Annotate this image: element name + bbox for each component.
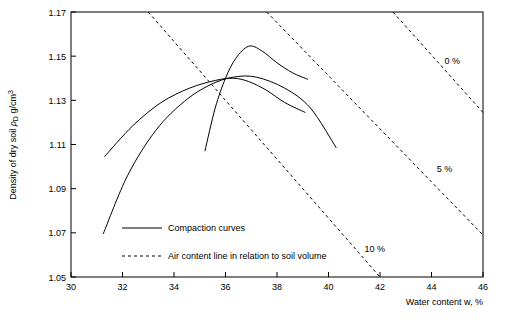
x-tick-label: 32 <box>117 282 127 292</box>
x-tick-label: 34 <box>169 282 179 292</box>
x-tick-label: 38 <box>272 282 282 292</box>
annotation-0-percent: 0 % <box>444 56 460 66</box>
x-tick-label: 36 <box>220 282 230 292</box>
y-tick-label: 1.15 <box>48 52 66 62</box>
chart-container: 303234363840424446 1.051.071.091.111.131… <box>0 0 521 336</box>
y-tick-label: 1.13 <box>48 96 66 106</box>
y-tick-label: 1.05 <box>48 273 66 283</box>
y-axis-title-superscript: 3 <box>7 90 14 94</box>
annotations-group: 0 %5 %10 % <box>365 56 460 254</box>
y-axis-title: Density of dry soil ρD g/cm3 <box>7 90 19 200</box>
y-tick-label: 1.17 <box>48 8 66 18</box>
x-tick-label: 30 <box>66 282 76 292</box>
y-axis-ticks: 1.051.071.091.111.131.151.17 <box>48 8 76 283</box>
y-tick-label: 1.11 <box>49 140 66 150</box>
x-tick-label: 42 <box>375 282 385 292</box>
y-axis-title-main: Density of dry soil <box>8 126 18 200</box>
y-tick-label: 1.09 <box>48 184 66 194</box>
legend-label-air-content-line: Air content line in relation to soil vol… <box>168 251 327 261</box>
x-axis-ticks: 303234363840424446 <box>66 272 488 292</box>
x-tick-label: 44 <box>426 282 436 292</box>
compaction-curve-3 <box>104 78 305 156</box>
air-content-line-5-percent <box>267 12 483 235</box>
air-content-line-0-percent <box>148 12 380 277</box>
plot-frame <box>71 12 483 277</box>
chart-legend: Compaction curves Air content line in re… <box>122 223 327 261</box>
density-vs-water-content-chart: 303234363840424446 1.051.071.091.111.131… <box>0 0 521 336</box>
air-content-line-10-percent <box>393 12 483 112</box>
x-axis-title: Water content w, % <box>406 297 483 307</box>
y-tick-label: 1.07 <box>48 228 66 238</box>
annotation-5-percent: 5 % <box>437 164 453 174</box>
svg-text:Density of dry soil ρD g/cm3: Density of dry soil ρD g/cm3 <box>7 90 19 200</box>
compaction-curve-1 <box>103 76 336 234</box>
data-series-group <box>103 12 483 277</box>
y-axis-title-units: g/cm <box>8 94 18 116</box>
x-tick-label: 40 <box>323 282 333 292</box>
annotation-10-percent: 10 % <box>365 244 386 254</box>
legend-label-compaction-curves: Compaction curves <box>168 223 246 233</box>
x-tick-label: 46 <box>478 282 488 292</box>
